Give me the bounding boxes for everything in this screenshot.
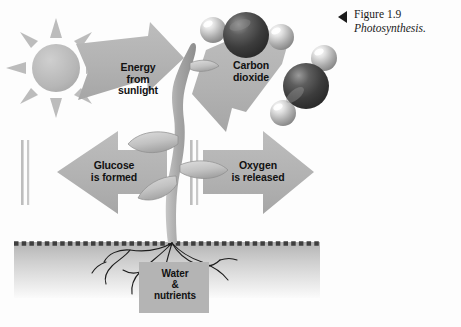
caption-text: Figure 1.9 Photosynthesis. <box>354 8 426 35</box>
caption-title: Photosynthesis. <box>354 22 426 36</box>
energy-from-sunlight-arrow <box>76 22 184 100</box>
photosynthesis-figure: Energy from sunlight Carbon dioxide Gluc… <box>0 0 461 327</box>
photosynthesis-diagram <box>0 0 461 327</box>
oxygen-atom <box>268 24 294 50</box>
oxygen-atom <box>200 17 226 43</box>
glucose-arrow-tail-lines <box>21 140 29 205</box>
plant-leaf-left <box>128 132 178 153</box>
caption-triangle-icon <box>338 11 347 23</box>
water-nutrients-box <box>139 262 209 313</box>
caption-number: Figure 1.9 <box>354 8 426 22</box>
figure-caption: Figure 1.9 Photosynthesis. <box>338 8 456 35</box>
carbon-atom <box>223 12 269 58</box>
